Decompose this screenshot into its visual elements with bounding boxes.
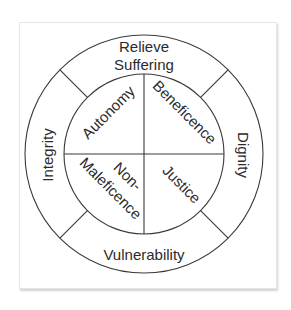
outer-label-relieve: Relieve [119, 38, 169, 55]
outer-label-suffering: Suffering [114, 56, 174, 73]
outer-divider-bottom-left [60, 211, 88, 239]
outer-label-dignity: Dignity [235, 132, 252, 178]
outer-label-integrity: Integrity [39, 128, 56, 182]
inner-label-autonomy: Autonomy [78, 82, 138, 142]
outer-label-vulnerability: Vulnerability [103, 246, 185, 263]
outer-divider-top-left [60, 70, 88, 98]
inner-label-beneficence: Beneficence [150, 77, 220, 147]
inner-label-justice: Justice [159, 162, 204, 207]
ethics-wheel-diagram: Relieve Suffering Dignity Vulnerability … [0, 0, 291, 310]
outer-divider-bottom-right [201, 211, 229, 239]
outer-divider-top-right [201, 70, 229, 98]
